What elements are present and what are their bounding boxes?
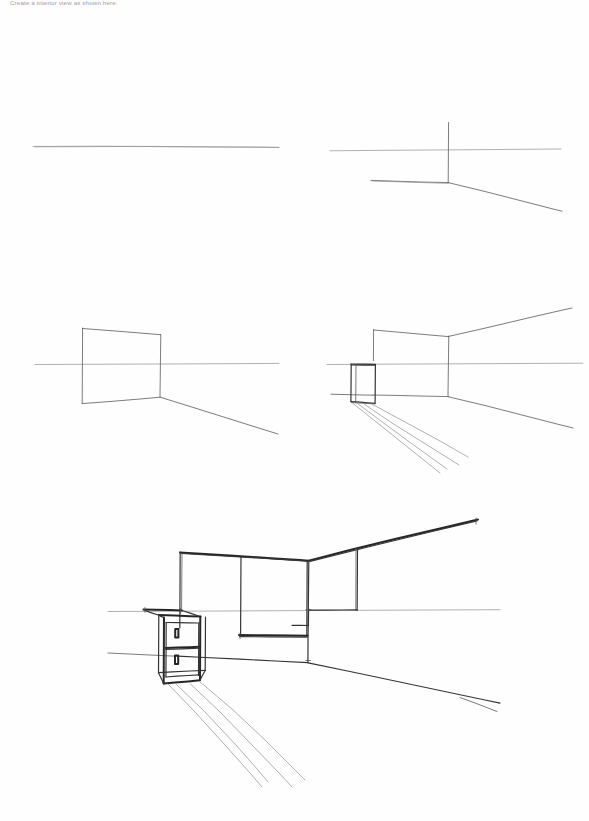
cabinet-handle-upper xyxy=(175,629,178,638)
floorboard-ray-4 xyxy=(200,682,306,781)
floor-right-far-edge xyxy=(460,698,497,712)
floor-ray-3 xyxy=(364,404,459,465)
back-wall-right-vertical xyxy=(160,334,161,397)
back-wall-bottom-edge xyxy=(82,397,160,403)
wall-shelf-board-overdraw xyxy=(240,637,308,638)
back-wall-top-edge xyxy=(83,329,161,335)
floor-front-edge-left xyxy=(331,394,373,395)
cabinet-top-board-front xyxy=(159,615,201,617)
ceiling-line-right xyxy=(309,520,478,561)
floor-line-right xyxy=(449,183,562,211)
ceiling-line-left-overdraw xyxy=(182,554,308,562)
worksheet-page: Create a interior view as shown here. .i… xyxy=(0,0,589,821)
sketch-canvas: .ink { stroke:#3a3a3a; fill:none; stroke… xyxy=(0,0,589,821)
floor-line-right xyxy=(161,397,279,434)
horizon-line xyxy=(35,363,279,364)
step-5-panel xyxy=(108,518,500,787)
cabinet-bottom-front xyxy=(164,680,200,683)
floorboard-ray-1 xyxy=(168,684,262,787)
corner-vertical xyxy=(448,336,449,397)
baseboard-line-left xyxy=(178,656,308,662)
cabinet-upper-shelf-top xyxy=(166,623,199,624)
ceiling-line-left xyxy=(374,330,449,337)
baseboard-line-left xyxy=(373,395,448,397)
wall-shelf-board xyxy=(239,635,308,636)
floor-ray-2 xyxy=(358,404,448,470)
step-1-panel xyxy=(33,146,279,147)
cabinet-handle-lower xyxy=(175,656,178,665)
ceiling-line-right xyxy=(449,308,572,336)
cabinet-lower-shelf-bottom xyxy=(166,675,199,677)
floorboard-ray-2 xyxy=(177,685,269,783)
floor-ray-1 xyxy=(353,403,441,473)
horizon-line xyxy=(330,149,561,151)
baseboard-line-right xyxy=(448,397,573,428)
floorboard-ray-3 xyxy=(190,684,292,788)
step-4-panel xyxy=(327,308,583,473)
baseboard-line-right xyxy=(308,663,500,703)
baseboard-line-left-extend xyxy=(108,653,178,656)
ceiling-line-right-overdraw xyxy=(310,521,477,562)
step-3-panel xyxy=(35,328,279,434)
step-2-panel xyxy=(330,123,562,212)
cabinet-top-board xyxy=(144,610,183,611)
